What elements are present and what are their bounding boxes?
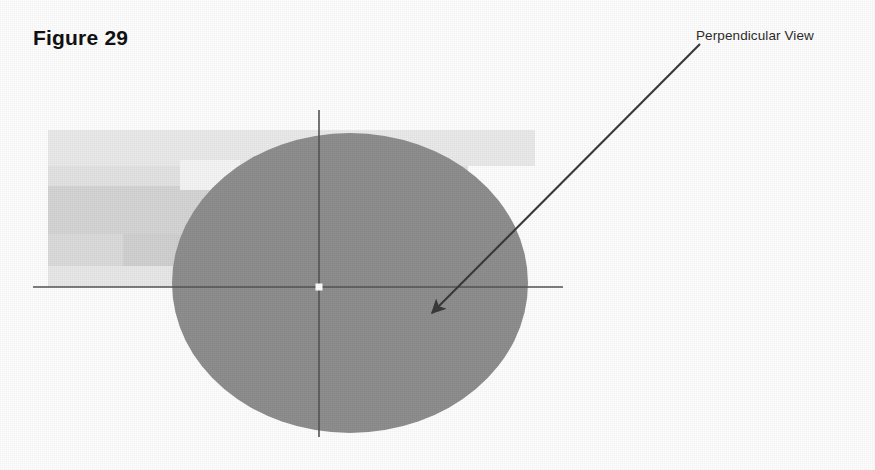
figure-caption: Figure 29	[33, 26, 128, 50]
figure-graphic	[0, 0, 875, 470]
axis-center-marker	[316, 284, 323, 291]
shaded-disc	[172, 133, 528, 433]
figure-canvas: Figure 29 Perpendicular View	[0, 0, 875, 470]
callout-label-perpendicular-view: Perpendicular View	[696, 28, 814, 43]
